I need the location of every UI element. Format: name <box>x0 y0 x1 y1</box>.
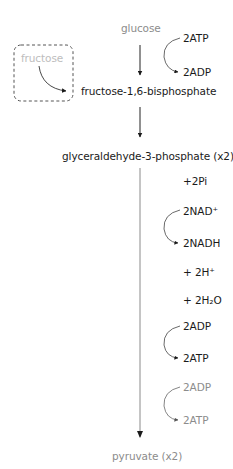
atp-out-label-1: 2ATP <box>183 352 208 364</box>
adp-in-label-2: 2ADP <box>183 381 211 393</box>
g3p-label: glyceraldehyde-3-phosphate (x2) <box>62 150 233 162</box>
glucose-label: glucose <box>121 22 161 34</box>
water-label: + 2H₂O <box>183 294 222 306</box>
pyruvate-label: pyruvate (x2) <box>112 450 182 462</box>
atp-in-label: 2ATP <box>183 32 208 44</box>
adp-in-label-1: 2ADP <box>183 320 211 332</box>
h-ion-label: + 2H⁺ <box>183 266 215 278</box>
fructose-label: fructose <box>21 52 63 64</box>
pi-label: +2Pi <box>183 175 207 187</box>
nadh-label: 2NADH <box>183 237 220 249</box>
fructose-bisphosphate-label: fructose-1,6-bisphosphate <box>81 85 216 97</box>
atp-out-label-2: 2ATP <box>183 414 208 426</box>
adp-out-label: 2ADP <box>183 66 211 78</box>
nad-label: 2NAD⁺ <box>183 205 218 217</box>
